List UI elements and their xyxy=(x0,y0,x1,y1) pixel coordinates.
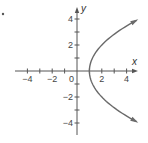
axes xyxy=(15,7,138,135)
stray-mark xyxy=(2,13,4,15)
x-tick-label: 4 xyxy=(124,74,129,84)
x-axis-label: x xyxy=(131,56,138,67)
x-tick-label: −2 xyxy=(47,74,57,84)
x-axis-arrow-icon xyxy=(132,69,138,73)
y-axis-label: y xyxy=(80,3,87,14)
y-tick-label: −4 xyxy=(63,118,73,128)
x-tick-label: −4 xyxy=(22,74,32,84)
origin-label: 0 xyxy=(69,74,74,84)
curve-arrow-upper-icon xyxy=(130,19,138,25)
y-tick-label: −2 xyxy=(63,92,73,102)
x-tick-label: 2 xyxy=(99,74,104,84)
curve-arrow-lower-icon xyxy=(130,117,138,123)
parabola-chart: −4−22442−2−40 x y xyxy=(0,0,148,143)
y-tick-label: 2 xyxy=(68,40,73,50)
y-axis-arrow-icon xyxy=(75,7,79,13)
y-tick-label: 4 xyxy=(68,14,73,24)
